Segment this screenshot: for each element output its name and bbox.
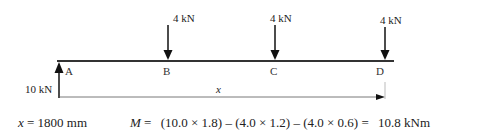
point-label-a: A: [65, 66, 73, 77]
reaction-label-a: 10 kN: [25, 84, 52, 95]
x-value: = 1800 mm: [24, 115, 87, 130]
x-equation: x = 1800 mm: [18, 116, 87, 129]
load-arrow-b: [164, 25, 173, 60]
point-label-c: C: [270, 66, 277, 77]
point-label-b: B: [163, 66, 170, 77]
reaction-arrow-a: [55, 62, 64, 98]
load-label-b: 4 kN: [173, 13, 195, 24]
load-label-d: 4 kN: [380, 15, 402, 26]
moment-equation: M = (10.0 × 1.8) – (4.0 × 1.2) – (4.0 × …: [130, 116, 430, 129]
m-expression: (10.0 × 1.8) – (4.0 × 1.2) – (4.0 × 0.6)…: [161, 115, 369, 130]
point-label-d: D: [376, 66, 384, 77]
dimension-label-x: x: [216, 84, 221, 95]
load-arrow-c: [271, 25, 280, 60]
m-variable: M: [130, 115, 141, 130]
m-result: 10.8 kNm: [378, 115, 430, 130]
dimension-line-x: [59, 82, 385, 100]
m-equals: =: [141, 115, 152, 130]
load-arrow-d: [381, 27, 390, 60]
load-label-c: 4 kN: [270, 13, 292, 24]
